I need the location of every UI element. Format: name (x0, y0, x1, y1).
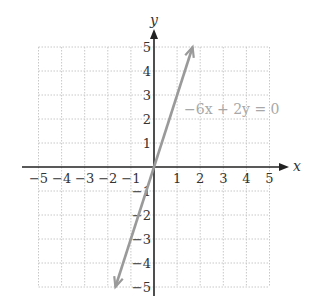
y-tick-label: −3 (132, 232, 151, 247)
y-tick-label: 1 (143, 136, 151, 151)
x-tick-label: 4 (242, 171, 250, 186)
x-tick-label: 3 (219, 171, 227, 186)
y-tick-label: 4 (143, 64, 151, 79)
equation-label: −6x + 2y = 0 (184, 101, 280, 117)
y-tick-label: −4 (132, 256, 151, 271)
axes: x y (22, 12, 301, 296)
y-axis-arrow-icon (150, 29, 158, 39)
y-axis-label: y (149, 12, 159, 28)
coordinate-plane: x y −5−4−3−2−112345 54321−1−2−3−4−5 −6x … (0, 0, 310, 308)
y-tick-label: 5 (143, 40, 151, 55)
y-tick-label: 3 (143, 88, 151, 103)
x-axis-arrow-icon (279, 163, 289, 171)
y-tick-label: −5 (132, 280, 151, 295)
x-tick-label: 5 (265, 171, 273, 186)
x-tick-label: 2 (196, 171, 204, 186)
x-axis-label: x (293, 158, 301, 174)
y-tick-label: 2 (143, 112, 151, 127)
x-tick-label: 1 (173, 171, 181, 186)
x-tick-label: −4 (52, 171, 71, 186)
x-tick-label: −5 (29, 171, 48, 186)
x-tick-label: −3 (75, 171, 94, 186)
x-tick-label: −2 (98, 171, 117, 186)
